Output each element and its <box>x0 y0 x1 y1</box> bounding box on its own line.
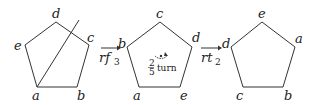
vertex-label: e <box>14 38 22 53</box>
vertex-label: c <box>156 6 164 21</box>
rotation-text: turn <box>157 63 177 73</box>
pentagon-3: e a b c d <box>222 6 303 103</box>
vertex-label: e <box>180 88 188 103</box>
vertex-label: b <box>284 88 292 103</box>
vertex-label: d <box>222 36 230 51</box>
vertex-label: d <box>192 30 200 45</box>
vertex-label: e <box>258 6 266 21</box>
operation-subscript: 2 <box>215 57 221 67</box>
vertex-label: d <box>52 6 60 21</box>
vertex-label: c <box>87 30 95 45</box>
vertex-label: b <box>118 36 126 51</box>
operation-subscript: 3 <box>114 57 120 67</box>
vertex-label: b <box>77 88 85 103</box>
arrow-rt2: rt 2 <box>201 46 222 68</box>
reflection-line <box>37 20 79 87</box>
vertex-label: c <box>236 88 244 103</box>
vertex-label: a <box>32 88 40 103</box>
vertex-label: a <box>133 88 141 103</box>
pentagon-2: c d e a b 2 5 turn <box>118 6 200 103</box>
operation-label: rf <box>99 50 112 65</box>
fraction-denominator: 5 <box>149 67 155 77</box>
rotation-icon <box>155 52 168 59</box>
vertex-label: a <box>295 31 303 46</box>
pentagon-1: d c b a e <box>14 6 95 103</box>
operation-label: rt <box>201 50 213 65</box>
pentagon-symmetry-diagram: d c b a e rf 3 c d e a b 2 5 turn rt 2 <box>0 0 315 105</box>
